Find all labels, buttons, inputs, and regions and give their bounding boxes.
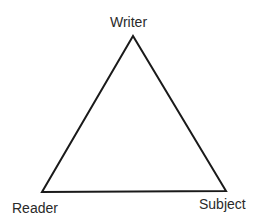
vertex-label-reader: Reader (12, 201, 58, 215)
vertex-label-subject: Subject (199, 197, 246, 211)
vertex-label-writer: Writer (110, 15, 147, 29)
rhetorical-triangle-diagram: Writer Reader Subject (0, 0, 270, 223)
triangle-outline (42, 36, 226, 192)
triangle-shape (0, 0, 270, 223)
